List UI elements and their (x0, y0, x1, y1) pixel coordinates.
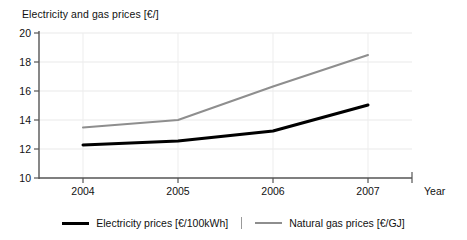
y-gridlines (39, 33, 412, 149)
y-tick-label-10: 10 (19, 172, 31, 184)
x-tick-label-2007: 2007 (356, 185, 380, 197)
x-tick-label-2004: 2004 (71, 185, 95, 197)
y-tick-label-12: 12 (19, 143, 31, 155)
y-axis (34, 31, 39, 179)
x-tick-label-2005: 2005 (166, 185, 190, 197)
chart-legend: Electricity prices [€/100kWh] Natural ga… (0, 206, 467, 240)
x-tick-label-2006: 2006 (261, 185, 285, 197)
legend-swatch-electricity-icon (62, 222, 89, 225)
x-gridlines (83, 33, 368, 178)
x-axis (39, 172, 412, 183)
legend-label-electricity: Electricity prices [€/100kWh] (96, 217, 228, 229)
legend-swatch-natural-gas-icon (255, 222, 282, 224)
y-tick-label-16: 16 (19, 85, 31, 97)
legend-item-natural-gas[interactable]: Natural gas prices [€/GJ] (241, 217, 418, 229)
y-tick-label-14: 14 (19, 114, 31, 126)
y-tick-label-20: 20 (19, 27, 31, 39)
y-tick-labels: 20 18 16 14 12 10 (19, 27, 31, 184)
line-chart-plot: 20 18 16 14 12 10 2004 2005 2006 2007 Ye… (0, 0, 467, 240)
y-tick-label-18: 18 (19, 56, 31, 68)
x-axis-title: Year (424, 185, 446, 197)
chart-container: Electricity and gas prices [€/] 20 (0, 0, 467, 240)
x-tick-labels: 2004 2005 2006 2007 (71, 185, 380, 197)
legend-item-electricity[interactable]: Electricity prices [€/100kWh] (49, 217, 241, 229)
legend-label-natural-gas: Natural gas prices [€/GJ] (289, 217, 405, 229)
